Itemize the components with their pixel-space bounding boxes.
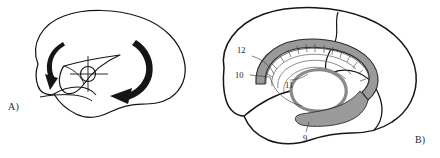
label-10: 10 (235, 70, 244, 80)
label-12: 12 (237, 45, 246, 55)
figure-container: A) (0, 0, 440, 158)
temporal-lobe-outline (54, 87, 96, 95)
panel-a-brain-rotation-diagram (0, 0, 210, 158)
brain-outline (36, 10, 186, 117)
panel-b-letter: B) (415, 134, 425, 145)
sylvian-fissure-line (40, 95, 92, 101)
rotation-arrow-right (110, 40, 153, 104)
panel-b-brain-structures-diagram: 12 10 11 9 (210, 0, 440, 158)
rotation-arrow-left (45, 42, 65, 90)
panel-a-letter: A) (8, 101, 19, 112)
label-11: 11 (285, 80, 293, 90)
inner-oval-structure (291, 70, 346, 111)
label-9: 9 (303, 133, 307, 143)
